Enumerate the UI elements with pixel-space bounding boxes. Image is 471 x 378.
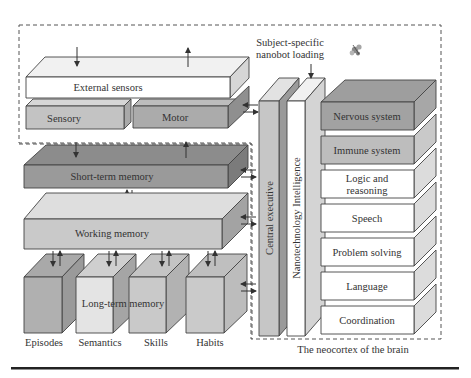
external-sensors-block: External sensors [26,57,249,98]
nanotechnology-intelligence-label: Nanotechnology Intelligence [291,157,302,279]
central-executive-label: Central executive [264,181,275,255]
working-memory-label: Working memory [75,228,150,239]
external-sensors-label: External sensors [73,82,142,93]
habits-label: Habits [196,337,223,348]
habits-cube [186,254,247,333]
short-term-memory-label: Short-term memory [70,171,154,182]
nanotechnology-intelligence-pillar: Nanotechnology Intelligence [287,78,325,336]
skills-cube [129,254,189,333]
immune-system-label: Immune system [334,145,401,156]
bottom-rule [11,367,459,370]
skills-label: Skills [144,337,168,348]
nervous-system-label: Nervous system [333,111,400,122]
nanobot-icon [350,44,362,55]
nanobot-loading-line2: nanobot loading [256,49,325,60]
working-memory-block: Working memory [24,193,248,249]
neocortex-stack: Nervous system Immune system Logic and r… [321,80,436,334]
neocortex-caption: The neocortex of the brain [297,344,409,355]
motor-label: Motor [162,112,189,123]
language-label: Language [346,281,388,292]
brain-architecture-diagram: External sensors Sensory Motor Short-ter… [0,0,471,378]
nanobot-loading-line1: Subject-specific [256,37,324,48]
coordination-label: Coordination [339,315,395,326]
logic-and-reasoning-label-line2: reasoning [347,185,389,196]
sensory-label: Sensory [47,113,82,124]
long-term-memory-label: Long-term memory [82,298,165,309]
episodes-cube [24,254,84,333]
sensory-block: Sensory [26,99,131,129]
neocortex-layer-nervous-system [321,80,436,130]
problem-solving-label: Problem solving [332,247,402,258]
short-term-memory-block: Short-term memory [24,145,248,188]
speech-label: Speech [352,213,383,224]
semantics-label: Semantics [78,337,121,348]
logic-and-reasoning-label-line1: Logic and [346,173,389,184]
semantics-cube [76,254,136,333]
episodes-label: Episodes [25,337,63,348]
